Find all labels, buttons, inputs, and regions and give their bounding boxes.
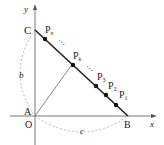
y-axis-arrow-icon <box>33 4 37 10</box>
point-pk <box>71 63 75 67</box>
label-p2: P2 <box>108 80 117 92</box>
point-p2 <box>104 93 108 97</box>
x-axis-arrow-icon <box>151 114 157 118</box>
x-axis-label: x <box>149 119 154 129</box>
point-pn <box>43 37 47 41</box>
label-p1: P1 <box>119 89 128 101</box>
label-c-point: C <box>24 24 31 36</box>
segment-cb <box>35 30 128 116</box>
geometry-diagram: y x C A O B b c Pn ⋯ Pk ⋯ P3 P2 P1 <box>0 0 164 145</box>
segment-a-pk <box>35 63 73 116</box>
ellipsis-upper: ⋯ <box>56 37 68 49</box>
ellipsis-lower: ⋯ <box>84 63 96 75</box>
label-a: A <box>24 106 32 117</box>
label-o: O <box>25 119 32 130</box>
point-p3 <box>94 84 98 88</box>
y-axis-label: y <box>23 4 28 14</box>
label-arc-c: c <box>80 126 84 136</box>
point-p1 <box>114 103 118 107</box>
label-p3: P3 <box>97 71 106 83</box>
label-pn: Pn <box>45 24 54 36</box>
label-b-point: B <box>124 119 131 130</box>
label-arc-b: b <box>19 70 24 80</box>
label-pk: Pk <box>73 50 82 62</box>
